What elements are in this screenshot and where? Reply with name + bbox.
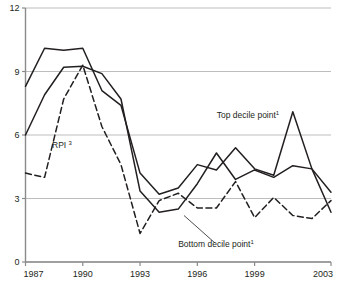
top-decile-label: Top decile point1 (217, 110, 280, 120)
top-decile-label-footnote: 1 (276, 110, 280, 116)
top-decile-label-text: Top decile point (217, 110, 277, 120)
x-tick-label-2003: 2003 (313, 269, 333, 279)
y-axis-ticks: 036912 (9, 3, 25, 267)
rpi-label: RPI 3 (52, 140, 73, 150)
series-line-top-decile-point (26, 48, 332, 194)
chart-canvas: 036912198719901993199619992003Top decile… (0, 0, 343, 291)
annotations: Top decile point1Bottom decile point1RPI… (52, 110, 280, 249)
y-tick-label-9: 9 (14, 67, 19, 77)
y-tick-label-0: 0 (14, 257, 19, 267)
x-tick-label-1993: 1993 (130, 269, 150, 279)
y-tick-label-6: 6 (14, 130, 19, 140)
x-tick-label-1987: 1987 (24, 269, 44, 279)
line-chart: 036912198719901993199619992003Top decile… (0, 0, 343, 291)
rpi-label-text: RPI (52, 140, 69, 150)
rpi-label-footnote: 3 (69, 140, 73, 146)
bottom-decile-label-text: Bottom decile point (178, 239, 251, 249)
x-axis-ticks: 198719901993199619992003 (24, 262, 334, 279)
x-tick-label-1999: 1999 (245, 269, 265, 279)
bottom-decile-label-footnote: 1 (250, 239, 254, 245)
y-tick-label-3: 3 (14, 194, 19, 204)
x-tick-label-1996: 1996 (187, 269, 207, 279)
y-tick-label-12: 12 (9, 3, 19, 13)
x-tick-label-1990: 1990 (73, 269, 93, 279)
bottom-decile-label: Bottom decile point1 (178, 239, 254, 249)
